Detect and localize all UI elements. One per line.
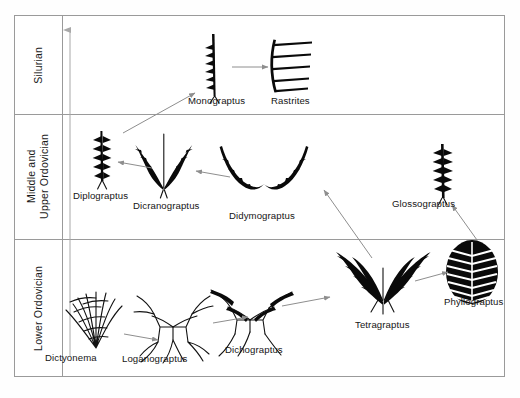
genus-label-dichograptus: Dichograptus <box>225 344 283 355</box>
genus-label-diplograptus: Diplograptus <box>73 190 128 201</box>
era-column-divider <box>62 16 63 376</box>
era-label-silurian-text: Silurian <box>32 47 45 84</box>
genus-label-dicranograptus: Dicranograptus <box>133 200 199 211</box>
silurian-ordovician-boundary <box>15 114 504 115</box>
genus-label-glossograptus: Glossograptus <box>392 198 455 209</box>
middle-lower-ordovician-boundary <box>15 239 504 240</box>
genus-label-phyllograptus: Phyllograptus <box>444 296 503 307</box>
genus-label-rastrites: Rastrites <box>271 95 310 106</box>
genus-label-loganograptus: Loganograptus <box>122 353 187 364</box>
genus-label-monograptus: Monograptus <box>188 95 245 106</box>
era-label-middle-upper-ordovician: Middle and Upper Ordovician <box>15 114 62 239</box>
genus-label-tetragraptus: Tetragraptus <box>355 319 410 330</box>
era-label-middle-upper-ordovician-text: Middle and Upper Ordovician <box>25 134 51 219</box>
era-label-silurian: Silurian <box>15 16 62 114</box>
figure-canvas: Silurian Middle and Upper Ordovician Low… <box>0 0 520 398</box>
era-label-lower-ordovician-text: Lower Ordovician <box>32 266 45 351</box>
genus-label-dictyonema: Dictyonema <box>45 352 97 363</box>
genus-label-didymograptus: Didymograptus <box>229 210 295 221</box>
